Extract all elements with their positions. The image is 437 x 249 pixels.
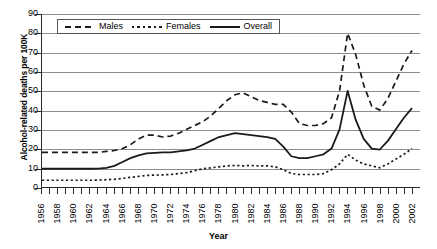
chart-legend: Males Females Overall xyxy=(57,19,280,34)
legend-item-males: Males xyxy=(65,22,123,31)
x-tick-mark xyxy=(65,188,66,194)
line-chart: Alcohol-related deaths per 100K 01020304… xyxy=(0,0,437,249)
x-tick-label: 1976 xyxy=(198,199,207,229)
x-tick-mark xyxy=(404,188,405,194)
x-tick-mark xyxy=(323,188,324,194)
x-tick-label: 1986 xyxy=(278,199,287,229)
x-tick-label: 1988 xyxy=(295,199,304,229)
x-tick-mark xyxy=(355,188,356,194)
x-tick-mark xyxy=(331,188,332,194)
x-tick-mark xyxy=(267,188,268,194)
x-tick-mark xyxy=(388,188,389,194)
x-tick-label: 1984 xyxy=(262,199,271,229)
x-tick-label: 1972 xyxy=(166,199,175,229)
x-tick-mark xyxy=(122,188,123,194)
x-tick-mark xyxy=(235,188,236,194)
x-tick-mark xyxy=(146,188,147,194)
x-tick-label: 1974 xyxy=(182,199,191,229)
x-tick-mark xyxy=(339,188,340,194)
x-tick-label: 1998 xyxy=(375,199,384,229)
x-tick-mark xyxy=(194,188,195,194)
x-axis-tick-labels: 1956195819601962196419661968197019721974… xyxy=(41,196,420,228)
legend-label-overall: Overall xyxy=(244,22,273,31)
x-tick-mark xyxy=(347,188,348,194)
x-tick-mark xyxy=(372,188,373,194)
x-tick-mark xyxy=(291,188,292,194)
series-lines xyxy=(42,14,420,187)
x-tick-mark xyxy=(154,188,155,194)
x-tick-mark xyxy=(218,188,219,194)
x-tick-mark xyxy=(186,188,187,194)
x-tick-mark xyxy=(106,188,107,194)
x-tick-label: 1996 xyxy=(359,199,368,229)
x-tick-label: 1968 xyxy=(133,199,142,229)
x-axis-tick-marks xyxy=(41,188,420,195)
x-tick-mark xyxy=(315,188,316,194)
x-tick-mark xyxy=(396,188,397,194)
plot-area xyxy=(41,14,420,188)
x-tick-mark xyxy=(380,188,381,194)
x-tick-mark xyxy=(275,188,276,194)
x-tick-mark xyxy=(259,188,260,194)
x-tick-label: 1960 xyxy=(69,199,78,229)
x-tick-mark xyxy=(243,188,244,194)
x-tick-mark xyxy=(202,188,203,194)
x-tick-mark xyxy=(412,188,413,194)
x-tick-mark xyxy=(130,188,131,194)
x-tick-label: 2000 xyxy=(391,199,400,229)
x-tick-mark xyxy=(210,188,211,194)
x-tick-mark xyxy=(364,188,365,194)
x-tick-label: 1990 xyxy=(311,199,320,229)
series-line-overall xyxy=(42,91,412,169)
x-tick-label: 1966 xyxy=(117,199,126,229)
legend-label-males: Males xyxy=(99,22,123,31)
x-tick-label: 1958 xyxy=(53,199,62,229)
x-tick-mark xyxy=(162,188,163,194)
x-tick-label: 1962 xyxy=(85,199,94,229)
x-tick-mark xyxy=(178,188,179,194)
x-axis-title: Year xyxy=(0,231,437,241)
legend-label-females: Females xyxy=(166,22,201,31)
x-tick-mark xyxy=(89,188,90,194)
series-line-females xyxy=(42,149,412,181)
x-tick-label: 1992 xyxy=(327,199,336,229)
x-tick-label: 1982 xyxy=(246,199,255,229)
x-tick-mark xyxy=(114,188,115,194)
x-tick-mark xyxy=(57,188,58,194)
x-tick-label: 1970 xyxy=(149,199,158,229)
x-tick-mark xyxy=(226,188,227,194)
x-tick-mark xyxy=(283,188,284,194)
x-tick-label: 1964 xyxy=(101,199,110,229)
x-tick-mark xyxy=(307,188,308,194)
x-tick-mark xyxy=(81,188,82,194)
x-tick-mark xyxy=(299,188,300,194)
legend-item-overall: Overall xyxy=(210,22,273,31)
x-tick-mark xyxy=(251,188,252,194)
x-tick-mark xyxy=(138,188,139,194)
x-tick-mark xyxy=(97,188,98,194)
x-tick-label: 1994 xyxy=(343,199,352,229)
x-tick-mark xyxy=(73,188,74,194)
x-tick-mark xyxy=(49,188,50,194)
x-tick-label: 2002 xyxy=(407,199,416,229)
x-tick-mark xyxy=(41,188,42,194)
x-tick-mark xyxy=(170,188,171,194)
x-tick-label: 1980 xyxy=(230,199,239,229)
x-tick-label: 1978 xyxy=(214,199,223,229)
x-tick-label: 1956 xyxy=(37,199,46,229)
legend-item-females: Females xyxy=(132,22,201,31)
